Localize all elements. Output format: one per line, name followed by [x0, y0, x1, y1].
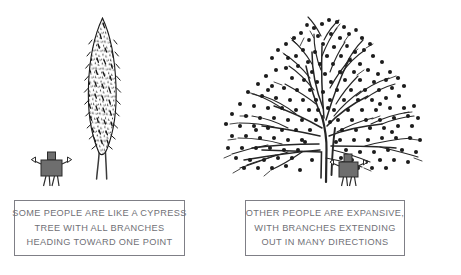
caption-left-line-2: TREE WITH ALL BRANCHES [35, 221, 165, 236]
caption-right-line-1: OTHER PEOPLE ARE EXPANSIVE, [246, 206, 404, 221]
caption-left-line-1: SOME PEOPLE ARE LIKE A CYPRESS [12, 206, 186, 221]
illustration-canvas: SOME PEOPLE ARE LIKE A CYPRESS TREE WITH… [0, 0, 461, 275]
figure-person-left [32, 152, 72, 186]
caption-left-line-3: HEADING TOWARD ONE POINT [26, 235, 172, 250]
caption-box-cypress: SOME PEOPLE ARE LIKE A CYPRESS TREE WITH… [14, 200, 185, 256]
caption-box-expansive: OTHER PEOPLE ARE EXPANSIVE, WITH BRANCHE… [245, 200, 405, 256]
spreading-tree-foliage-dots [224, 18, 422, 172]
cypress-tree [84, 14, 122, 179]
caption-right-line-3: OUT IN MANY DIRECTIONS [262, 235, 389, 250]
caption-right-line-2: WITH BRANCHES EXTENDING [254, 221, 395, 236]
spreading-tree [224, 17, 422, 182]
figure-person-right [330, 154, 367, 186]
